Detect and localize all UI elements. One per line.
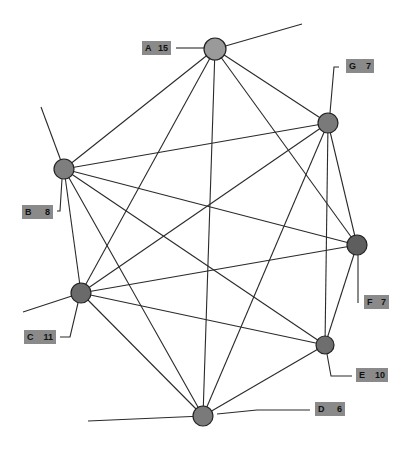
label-leader-E <box>327 354 352 376</box>
node-label-value: 6 <box>337 404 342 414</box>
node-F[interactable] <box>347 235 367 255</box>
node-D[interactable] <box>193 406 213 426</box>
edge-C-E <box>81 293 325 345</box>
node-label-value: 8 <box>45 207 50 217</box>
node-B[interactable] <box>54 159 74 179</box>
node-label-G: G7 <box>346 59 374 73</box>
edge-A-D <box>203 49 215 416</box>
edge-A-B <box>64 49 215 169</box>
edge-E-D <box>203 345 325 416</box>
node-label-value: 7 <box>381 297 386 307</box>
node-label-letter: D <box>318 404 325 414</box>
edge-F-E <box>325 245 357 345</box>
label-leader-D <box>217 410 310 414</box>
edge-G-F <box>328 123 357 245</box>
node-label-A: A15 <box>142 41 171 55</box>
node-label-letter: A <box>145 43 152 53</box>
label-leader-G <box>330 67 339 113</box>
node-label-value: 7 <box>366 61 371 71</box>
edge-stub-A <box>215 24 302 49</box>
label-leader-B <box>57 179 62 211</box>
edge-G-C <box>81 123 328 293</box>
node-label-letter: E <box>359 370 365 380</box>
edge-G-D <box>203 123 328 416</box>
edge-C-D <box>81 293 203 416</box>
edge-A-C <box>81 49 215 293</box>
node-label-letter: G <box>349 61 356 71</box>
edge-A-F <box>215 49 357 245</box>
label-leaders-layer <box>57 48 358 414</box>
edge-B-C <box>64 169 81 293</box>
node-G[interactable] <box>318 113 338 133</box>
nodes-layer <box>54 38 367 426</box>
node-label-value: 10 <box>375 370 385 380</box>
node-label-letter: C <box>27 332 34 342</box>
node-C[interactable] <box>71 283 91 303</box>
edge-B-G <box>64 123 328 169</box>
edge-G-E <box>325 123 328 345</box>
label-leader-C <box>60 303 78 337</box>
node-label-letter: B <box>25 207 32 217</box>
edges-layer <box>64 49 357 416</box>
node-A[interactable] <box>204 38 226 60</box>
edge-stub-D <box>88 416 203 421</box>
edge-A-G <box>215 49 328 123</box>
node-E[interactable] <box>316 336 334 354</box>
node-label-E: E10 <box>356 368 388 382</box>
node-label-value: 11 <box>43 332 53 342</box>
node-label-F: F7 <box>364 295 389 309</box>
node-label-letter: F <box>367 297 373 307</box>
edge-C-F <box>81 245 357 293</box>
stubs-layer <box>23 24 302 421</box>
node-label-B: B8 <box>22 205 53 219</box>
node-label-value: 15 <box>158 43 168 53</box>
node-label-C: C11 <box>24 330 56 344</box>
node-label-D: D6 <box>315 402 345 416</box>
